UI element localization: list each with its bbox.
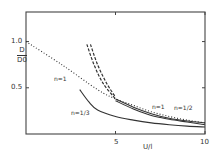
annotation-n1-3: n=1/3 <box>71 110 90 116</box>
chart-canvas <box>0 0 220 159</box>
annotation-n1-solid: n=1 <box>152 104 165 110</box>
x-tick-label-10: 10 <box>200 139 209 146</box>
axis-ticks <box>26 12 205 134</box>
series-line-1 <box>90 44 115 97</box>
x-tick-label-5: 5 <box>114 139 118 146</box>
y-axis-label-numerator: D <box>17 47 27 56</box>
y-axis-label: D D0 <box>17 47 27 64</box>
annotation-n1-2: n=1/2 <box>174 105 193 111</box>
y-tick-label-1-0: 1.0 <box>11 38 22 45</box>
x-axis-label: U/l <box>143 144 152 151</box>
annotation-n1-dotted: n=1 <box>54 76 67 82</box>
y-axis-label-denominator: D0 <box>17 56 27 64</box>
plot-frame <box>26 12 205 134</box>
y-tick-label-0-5: 0.5 <box>11 84 22 91</box>
series-group <box>26 42 205 127</box>
plot-border <box>26 12 205 134</box>
